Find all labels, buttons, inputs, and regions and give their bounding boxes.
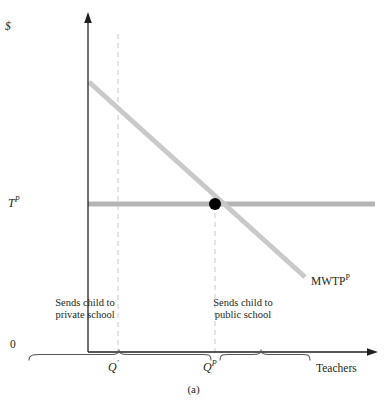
region-public-line2: public school [215, 309, 271, 320]
mwtp-curve [89, 82, 305, 277]
y-tick-superscript: P [15, 195, 20, 204]
region-public-line1: Sends child to [213, 297, 273, 308]
x-tick-q-prime-superscript: ′ [117, 359, 119, 368]
x-axis-arrowhead [367, 348, 378, 356]
x-axis-title: Teachers [316, 362, 357, 376]
region-private-line1: Sends child to [55, 297, 115, 308]
origin-label: 0 [10, 338, 16, 352]
mwtp-label-superscript: P [346, 273, 350, 282]
mwtp-label-base: MWTP [311, 275, 346, 287]
x-tick-label-q-prime: Q′ [108, 359, 118, 374]
x-tick-q-p-base: Q [203, 360, 212, 374]
mwtp-curve-label: MWTPP [311, 273, 350, 288]
x-tick-q-prime-base: Q [108, 360, 117, 374]
x-tick-label-q-p: QP [203, 359, 217, 374]
figure-caption: (a) [0, 383, 387, 396]
region-label-private-school: Sends child toprivate school [26, 297, 144, 322]
y-tick-label-tax-price: TP [8, 195, 20, 210]
economics-figure: $ TP Q′ QP 0 Teachers MWTPP Sends child … [0, 0, 387, 403]
region-private-line2: private school [55, 309, 114, 320]
y-axis-arrowhead [84, 12, 92, 23]
x-tick-q-p-superscript: P [212, 359, 217, 368]
plot-canvas [0, 0, 387, 403]
equilibrium-dot [209, 198, 221, 210]
y-tick-base: T [8, 196, 15, 210]
region-label-public-school: Sends child topublic school [182, 297, 304, 322]
y-axis-title: $ [5, 20, 11, 34]
